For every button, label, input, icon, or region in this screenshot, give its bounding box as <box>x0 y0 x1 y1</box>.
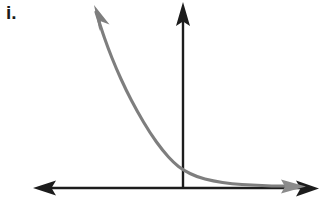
figure-canvas: i. <box>0 0 322 202</box>
x-axis <box>33 181 319 197</box>
exponential-decay-diagram <box>0 0 322 202</box>
y-axis <box>176 2 190 188</box>
curve-path <box>96 12 290 186</box>
exponential-decay-curve <box>94 5 306 193</box>
